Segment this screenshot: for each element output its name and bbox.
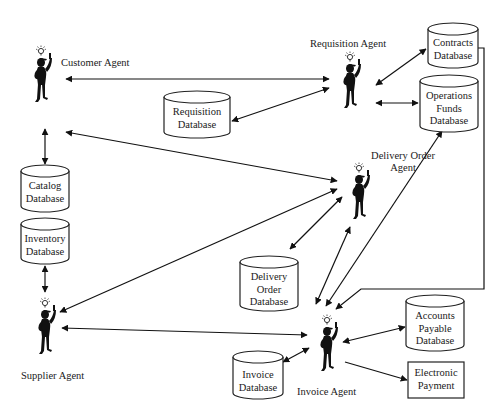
inventory-database: Inventory Database (21, 233, 69, 263)
customer-agent-label: Customer Agent (61, 57, 130, 69)
accounts-payable-database: Accounts Payable Database (406, 310, 464, 352)
electronic-payment-line2: Payment (408, 380, 464, 393)
accounts-payable-database-line3: Database (406, 335, 464, 348)
operations-funds-database-line1: Operations (420, 90, 478, 103)
invoice-database: Invoice Database (233, 369, 283, 399)
contracts-database-line2: Database (428, 50, 478, 63)
delivery-order-database-line1: Delivery (240, 271, 298, 284)
edge-reqdb-reqagent (232, 88, 329, 121)
contracts-database-line1: Contracts (428, 37, 478, 50)
supplier-agent-figure-icon (38, 298, 56, 355)
operations-funds-database-line3: Database (420, 115, 478, 128)
delivery-order-database-line3: Database (240, 296, 298, 309)
delivery-order-agent-label-line2: Agent (362, 162, 444, 174)
invoice-agent-figure-icon (320, 315, 338, 372)
requisition-database: Requisition Database (164, 106, 230, 136)
invoice-database-line1: Invoice (233, 369, 283, 382)
edge-invoice-payment (345, 362, 407, 380)
catalog-database-line1: Catalog (21, 180, 69, 193)
edge-deliveryagent-invoice (316, 227, 350, 304)
invoice-database-line2: Database (233, 382, 283, 395)
operations-funds-database-line2: Funds (420, 103, 478, 116)
accounts-payable-database-line1: Accounts (406, 310, 464, 323)
requisition-agent-figure-icon (343, 52, 361, 109)
delivery-order-agent-label-line1: Delivery Order (362, 150, 444, 162)
catalog-database-line2: Database (21, 193, 69, 206)
invoice-agent-label: Invoice Agent (297, 386, 356, 398)
customer-agent-figure-icon (34, 46, 52, 103)
inventory-database-line2: Database (21, 246, 69, 259)
electronic-payment: Electronic Payment (408, 367, 464, 397)
accounts-payable-database-line2: Payable (406, 323, 464, 336)
requisition-agent-label: Requisition Agent (310, 38, 386, 50)
supplier-agent-label: Supplier Agent (21, 370, 84, 382)
edge-deliveryagent-deliverydb (290, 197, 342, 249)
edge-invoice-accounts (343, 327, 405, 342)
edge-reqagent-contracts (376, 49, 426, 85)
delivery-order-database-line2: Order (240, 284, 298, 297)
edge-invoicedb-invoice (283, 348, 309, 362)
delivery-order-database: Delivery Order Database (240, 271, 298, 313)
catalog-database: Catalog Database (21, 180, 69, 210)
operations-funds-database: Operations Funds Database (420, 90, 478, 132)
requisition-database-line1: Requisition (164, 106, 230, 119)
contracts-database: Contracts Database (428, 37, 478, 67)
delivery-order-agent-label: Delivery Order Agent (362, 150, 444, 174)
electronic-payment-line1: Electronic (408, 367, 464, 380)
edge-customer-deliveryagent (66, 132, 337, 181)
requisition-database-line2: Database (164, 119, 230, 132)
edge-supplier-invoice (62, 328, 307, 335)
inventory-database-line1: Inventory (21, 233, 69, 246)
